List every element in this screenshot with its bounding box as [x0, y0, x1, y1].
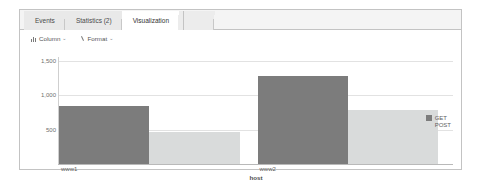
y-axis-ticks: 5001,0001,500 — [20, 47, 56, 165]
brush-icon — [80, 36, 86, 42]
x-axis-tick-label: www2 — [260, 166, 276, 172]
bar-www1-post[interactable] — [149, 132, 239, 164]
chevron-down-icon: ⌄ — [62, 36, 66, 41]
tab-events-label: Events — [35, 17, 55, 24]
column-menu-label: Column — [39, 35, 60, 42]
tab-list: Events Statistics (2) Visualization — [24, 10, 214, 30]
y-axis-tick-label: 1,500 — [22, 58, 56, 64]
tab-visualization[interactable]: Visualization — [122, 11, 178, 30]
bar-www2-post[interactable] — [348, 110, 438, 164]
bar-chart-icon — [31, 36, 37, 42]
column-menu-button[interactable]: Column ⌄ — [31, 35, 67, 42]
tab-visualization-label: Visualization — [133, 17, 169, 24]
bar-www2-get[interactable] — [258, 76, 348, 164]
tab-statistics-label: Statistics (2) — [76, 17, 112, 24]
legend-item-post[interactable]: POST — [426, 122, 451, 128]
bar-group-www1 — [59, 47, 258, 164]
visualization-panel-root: Events Statistics (2) Visualization Colu… — [0, 0, 482, 180]
tab-statistics[interactable]: Statistics (2) — [65, 11, 122, 30]
x-axis-line — [58, 164, 453, 165]
y-axis-tick-label: 1,000 — [22, 92, 56, 98]
chart-legend: GETPOST — [426, 115, 451, 129]
bar-group-www2 — [258, 47, 457, 164]
x-axis-tick-label: www1 — [61, 166, 77, 172]
format-menu-button[interactable]: Format ⌄ — [80, 35, 114, 42]
legend-item-get[interactable]: GET — [426, 115, 451, 121]
chevron-down-icon: ⌄ — [109, 36, 113, 41]
legend-label: GET — [435, 115, 447, 121]
chart-toolbar: Column ⌄ Format ⌄ — [20, 30, 461, 47]
legend-label: POST — [435, 122, 451, 128]
chart-plot-area: 5001,0001,500 www1www2 host GETPOST — [20, 47, 461, 170]
tab-events[interactable]: Events — [24, 11, 65, 30]
bar-series-container — [59, 47, 453, 164]
legend-swatch-icon — [426, 122, 432, 128]
format-menu-label: Format — [88, 35, 108, 42]
results-panel: Events Statistics (2) Visualization Colu… — [19, 9, 462, 170]
tab-strip: Events Statistics (2) Visualization — [20, 10, 461, 30]
x-axis-title: host — [59, 174, 453, 180]
bar-www1-get[interactable] — [59, 106, 149, 164]
legend-swatch-icon — [426, 115, 432, 121]
y-axis-tick-label: 500 — [22, 127, 56, 133]
